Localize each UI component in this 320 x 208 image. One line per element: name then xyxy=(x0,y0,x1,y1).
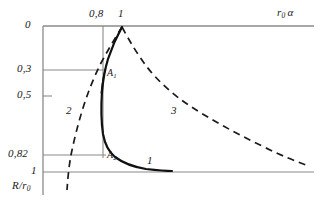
plot-canvas xyxy=(0,0,320,208)
x-tick-label-0-8: 0,8 xyxy=(89,8,103,19)
x-axis-label-suffix: α xyxy=(287,6,293,18)
curve-label-3: 3 xyxy=(171,105,177,116)
y-axis-label: R/r0 xyxy=(12,180,31,192)
y-tick-label-0-3: 0,3 xyxy=(17,63,31,74)
y-axis-label-sub: 0 xyxy=(27,184,31,193)
annotation-a2-sub: 2 xyxy=(113,154,117,161)
x-tick-label-1: 1 xyxy=(118,8,124,19)
annotation-point-a2: A2 xyxy=(107,150,117,161)
gridlines-group xyxy=(43,26,314,195)
x-axis-label-sub: 0 xyxy=(281,11,285,20)
curve-2-dashed xyxy=(67,27,122,190)
curve-3-dashed xyxy=(122,27,306,165)
y-tick-label-0-5: 0,5 xyxy=(17,89,31,100)
figure-plot-r0alpha: 0 0,3 0,5 0,82 1 0,8 1 r0α R/r0 A1 A2 2 … xyxy=(0,0,320,208)
curve-label-1: 1 xyxy=(147,155,153,166)
curve-label-2: 2 xyxy=(66,105,72,116)
y-tick-label-1: 1 xyxy=(31,165,37,176)
x-axis-label: r0α xyxy=(277,7,293,19)
annotation-point-a1: A1 xyxy=(107,68,117,79)
y-tick-label-0: 0 xyxy=(25,19,31,30)
y-tick-label-0-82: 0,82 xyxy=(8,148,28,159)
y-axis-label-base: R/r xyxy=(12,179,27,191)
annotation-a1-sub: 1 xyxy=(113,72,117,79)
